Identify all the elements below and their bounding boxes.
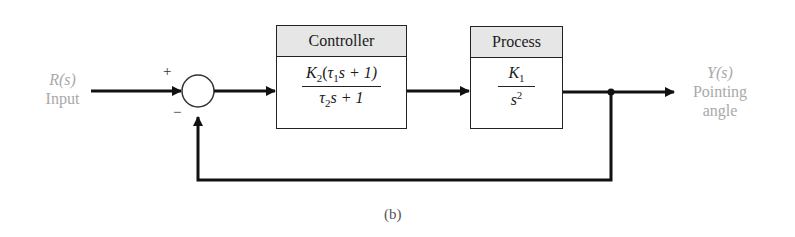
input-label: R(s) Input [30,70,95,108]
process-denominator: s2 [471,89,562,109]
figure-caption: (b) [384,206,402,223]
process-numerator: K1 [498,64,534,87]
output-label: Y(s) Pointing angle [680,63,760,120]
input-text: Input [30,89,95,108]
output-text-line1: Pointing [680,82,760,101]
controller-transfer-function: K2(τ1s + 1) τ2s + 1 [277,64,406,109]
controller-title: Controller [277,26,406,57]
minus-sign: − [173,104,181,121]
process-transfer-function: K1 s2 [471,64,562,110]
output-text-line2: angle [680,101,760,120]
process-block: Process K1 s2 [470,26,563,129]
output-symbol: Y(s) [680,63,760,82]
process-title: Process [471,27,562,58]
controller-denominator: τ2s + 1 [277,89,406,109]
plus-sign: + [163,63,171,80]
input-symbol: R(s) [30,70,95,89]
controller-numerator: K2(τ1s + 1) [302,64,381,87]
summing-junction [182,75,214,107]
controller-block: Controller K2(τ1s + 1) τ2s + 1 [276,25,407,129]
